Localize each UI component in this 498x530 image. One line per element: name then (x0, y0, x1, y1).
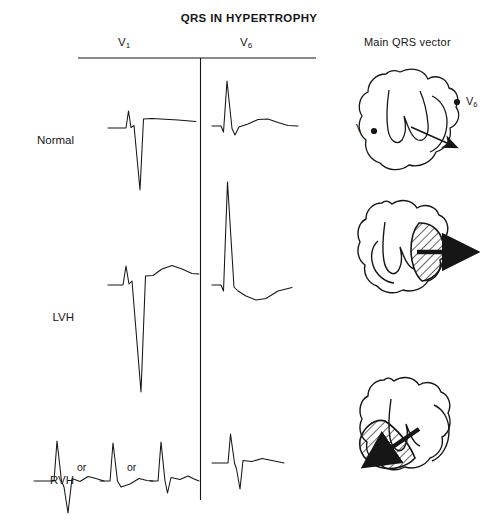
heart-diagram-rvh (360, 378, 450, 470)
ecg-trace-normal-v6 (212, 81, 298, 135)
ecg-trace-lvh-v1 (108, 266, 199, 393)
heart-diagram-normal (359, 69, 460, 170)
heart-septum-lvh (383, 222, 414, 274)
figure-canvas: QRS IN HYPERTROPHY V1 V6 Main QRS vector… (0, 0, 498, 530)
figure-artwork (0, 0, 498, 530)
electrode-dot-v1-normal (371, 128, 377, 134)
ecg-trace-rvh-v6 (212, 434, 284, 489)
ecg-trace-lvh-v6 (212, 182, 292, 300)
ecg-trace-rvh-v1-variant-3 (150, 442, 199, 493)
heart-outline-normal (359, 69, 458, 170)
ecg-trace-normal-v1 (108, 111, 196, 190)
electrode-dot-v6-normal (454, 99, 460, 105)
ecg-trace-rvh-v1-variant-1 (34, 441, 104, 513)
heart-diagram-lvh (358, 201, 474, 293)
ecg-trace-rvh-v1-variant-2 (100, 443, 153, 487)
